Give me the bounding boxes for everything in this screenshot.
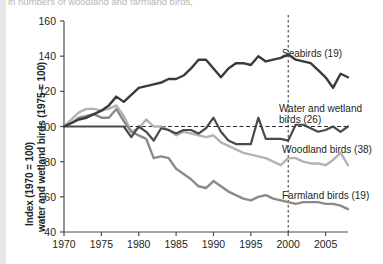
series-line-water-and-wetland-birds-26 — [64, 118, 348, 144]
series-line-seabirds-19 — [64, 54, 348, 126]
series-line-woodland-birds-38 — [64, 105, 348, 165]
bird-population-index-chart: in numbers of woodland and farmland bird… — [0, 0, 383, 264]
plot-area — [0, 0, 383, 264]
series-line-farmland-birds-19 — [64, 109, 348, 209]
